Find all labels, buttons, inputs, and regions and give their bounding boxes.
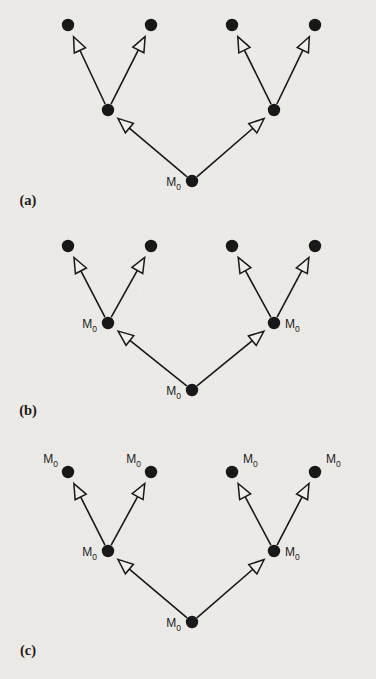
tree-node-leaf — [145, 466, 157, 478]
tree-edge — [111, 37, 145, 104]
tree-node-leaf — [145, 19, 157, 31]
tree-edge — [238, 37, 271, 104]
tree-node-mid — [268, 545, 280, 557]
tree-diagram-canvas: M0(a)M0M0M0(b)M0M0M0M0M0M0M0(c) — [0, 0, 376, 679]
arrowhead-icon — [74, 484, 86, 500]
tree-edge — [118, 559, 187, 617]
arrowhead-icon — [133, 37, 145, 53]
tree-node-leaf — [62, 240, 74, 252]
tree-node-leaf — [309, 466, 321, 478]
arrowhead-icon — [118, 118, 133, 132]
arrowhead-icon — [238, 483, 251, 499]
tree-edge — [198, 331, 264, 385]
tree-edge — [277, 484, 309, 545]
arrowhead-icon — [296, 257, 309, 273]
tree-edge — [277, 257, 309, 316]
node-label-m0: M0 — [126, 452, 141, 469]
tree-node-leaf — [309, 19, 321, 31]
tree-edge — [74, 37, 105, 104]
tree-edge — [111, 483, 144, 544]
tree-edge — [118, 331, 186, 385]
tree-node-mid — [102, 545, 114, 557]
node-label-m0: M0 — [285, 545, 300, 562]
arrowhead-icon — [132, 483, 145, 499]
arrowhead-icon — [248, 331, 264, 345]
arrowhead-icon — [132, 257, 145, 273]
arrowhead-icon — [74, 258, 86, 274]
tree-edge — [74, 258, 105, 317]
arrowhead-icon — [118, 331, 134, 345]
node-label-m0: M0 — [166, 616, 181, 633]
tree-node-mid — [102, 317, 114, 329]
node-label-m0: M0 — [166, 384, 181, 401]
tree-node-leaf — [309, 240, 321, 252]
tree-node-mid — [268, 104, 280, 116]
arrowhead-icon — [118, 559, 133, 573]
tree-edge — [118, 118, 187, 176]
panel-caption-a: (a) — [20, 192, 37, 209]
node-label-m0: M0 — [82, 545, 97, 562]
tree-edge — [197, 119, 264, 177]
panel-caption-b: (b) — [19, 402, 37, 419]
tree-panel-c: M0M0M0M0M0M0M0(c) — [20, 452, 341, 659]
tree-edge — [112, 257, 145, 316]
tree-node-mid — [102, 104, 114, 116]
tree-node-leaf — [226, 466, 238, 478]
arrowhead-icon — [297, 37, 309, 53]
tree-node-root — [186, 616, 198, 628]
panels-group: M0(a)M0M0M0(b)M0M0M0M0M0M0M0(c) — [19, 19, 341, 659]
tree-node-root — [186, 175, 198, 187]
tree-node-leaf — [62, 19, 74, 31]
tree-node-leaf — [226, 240, 238, 252]
tree-edge — [197, 560, 264, 618]
tree-edge — [238, 257, 270, 316]
node-label-m0: M0 — [43, 452, 58, 469]
panel-caption-c: (c) — [20, 642, 36, 659]
tree-edge — [74, 484, 105, 545]
arrowhead-icon — [238, 257, 251, 273]
node-label-m0: M0 — [243, 452, 258, 469]
arrowhead-icon — [297, 484, 309, 500]
tree-node-mid — [268, 317, 280, 329]
tree-panel-b: M0M0M0(b) — [19, 240, 321, 419]
node-label-m0: M0 — [82, 317, 97, 334]
tree-edge — [238, 483, 271, 544]
tree-panel-a: M0(a) — [20, 19, 322, 209]
arrowhead-icon — [238, 37, 250, 53]
node-label-m0: M0 — [166, 175, 181, 192]
node-label-m0: M0 — [285, 317, 300, 334]
tree-node-leaf — [62, 466, 74, 478]
tree-edge — [277, 37, 309, 104]
arrowhead-icon — [74, 37, 86, 53]
tree-node-root — [186, 384, 198, 396]
tree-node-leaf — [145, 240, 157, 252]
figure-container: M0(a)M0M0M0(b)M0M0M0M0M0M0M0(c) — [0, 0, 376, 679]
node-label-m0: M0 — [326, 452, 341, 469]
tree-node-leaf — [226, 19, 238, 31]
